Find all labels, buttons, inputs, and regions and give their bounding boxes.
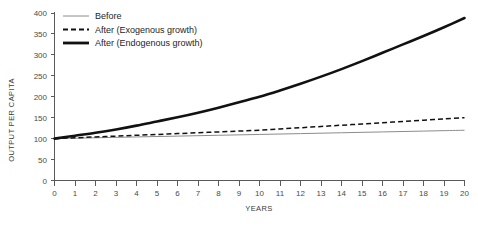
x-tick-label: 17 [399,189,408,198]
x-tick-label: 1 [73,189,78,198]
output-per-capita-line-chart: 050100150200250300350400 OUTPUT PER CAPI… [0,0,478,229]
x-tick-label: 20 [460,189,469,198]
x-tick-label: 18 [419,189,428,198]
y-tick-label: 250 [34,72,48,81]
x-tick-label: 15 [358,189,367,198]
x-tick-label: 19 [440,189,449,198]
x-tick-label: 10 [255,189,264,198]
x-tick-label: 8 [216,189,221,198]
x-tick-label: 2 [93,189,98,198]
y-tick-label: 100 [34,135,48,144]
legend-label: After (Endogenous growth) [95,38,203,48]
x-tick-label: 13 [317,189,326,198]
x-tick-label: 0 [52,189,57,198]
x-tick-label: 16 [378,189,387,198]
y-tick-label: 150 [34,114,48,123]
y-axis-title: OUTPUT PER CAPITA [7,78,16,162]
x-tick-label: 14 [337,189,346,198]
y-tick-label: 0 [43,177,48,186]
x-tick-label: 5 [155,189,160,198]
x-axis-title: YEARS [245,204,272,213]
y-tick-label: 200 [34,93,48,102]
y-tick-label: 350 [34,30,48,39]
x-tick-label: 4 [134,189,139,198]
y-tick-label: 50 [38,156,47,165]
y-tick-label: 400 [34,9,48,18]
x-tick-label: 3 [114,189,119,198]
y-tick-label: 300 [34,51,48,60]
legend-label: After (Exogenous growth) [95,25,197,35]
legend-label: Before [95,11,122,21]
x-tick-label: 7 [196,189,201,198]
x-tick-label: 12 [296,189,305,198]
x-tick-label: 6 [175,189,180,198]
chart-container: 050100150200250300350400 OUTPUT PER CAPI… [0,0,478,229]
x-tick-label: 11 [276,189,285,198]
x-tick-label: 9 [237,189,242,198]
